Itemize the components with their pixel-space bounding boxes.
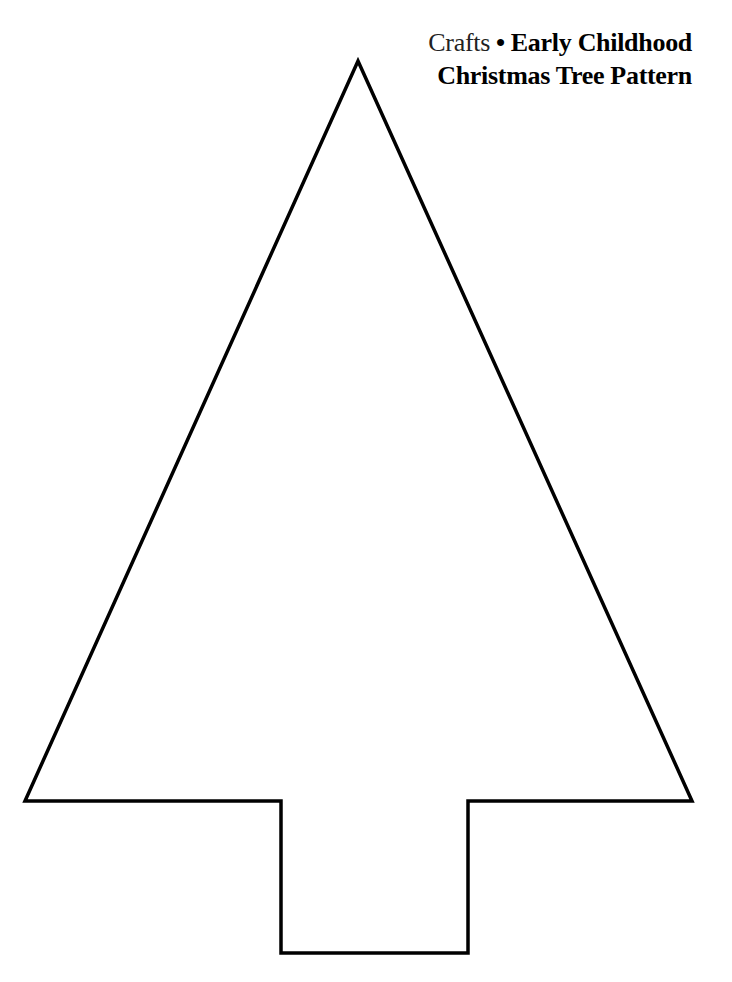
christmas-tree-pattern	[0, 0, 732, 982]
tree-outline	[25, 61, 692, 953]
